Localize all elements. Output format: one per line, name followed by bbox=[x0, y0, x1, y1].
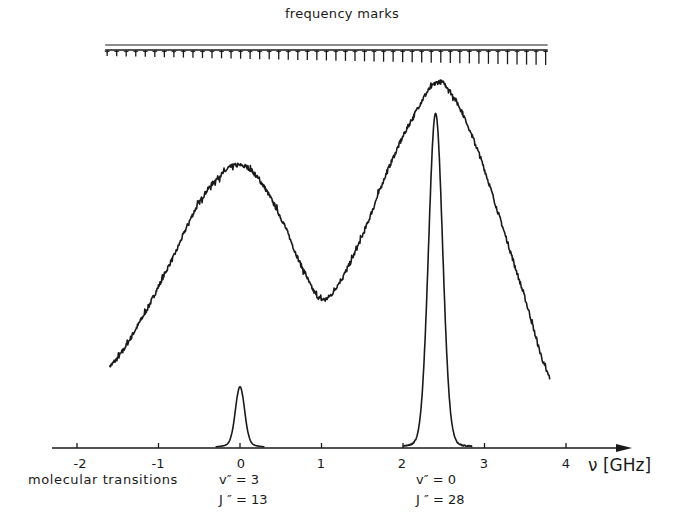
x-axis bbox=[52, 443, 632, 452]
transition-peaks-trace bbox=[216, 113, 473, 446]
transition-2-j-label: J ″ = 28 bbox=[416, 492, 465, 507]
x-tick-label: 4 bbox=[562, 456, 570, 471]
x-axis-title: ν [GHz] bbox=[588, 455, 651, 475]
transition-2-v-label: v″ = 0 bbox=[416, 472, 456, 487]
x-tick-label: 2 bbox=[398, 456, 406, 471]
x-tick-label: 1 bbox=[317, 456, 325, 471]
x-tick-label: -1 bbox=[152, 456, 165, 471]
broad-profile-trace bbox=[110, 80, 550, 379]
plot-area bbox=[0, 0, 684, 532]
x-tick-label: -2 bbox=[74, 456, 87, 471]
frequency-marks-comb bbox=[105, 45, 548, 65]
x-tick-label: 0 bbox=[237, 456, 245, 471]
frequency-marks-label: frequency marks bbox=[0, 6, 684, 21]
x-tick-label: 3 bbox=[480, 456, 488, 471]
spectrum-figure: frequency marks -2 -1 0 1 2 3 4 ν [GHz] … bbox=[0, 0, 684, 532]
transition-1-j-label: J ″ = 13 bbox=[219, 492, 268, 507]
transition-1-v-label: v″ = 3 bbox=[219, 472, 259, 487]
molecular-transitions-label: molecular transitions bbox=[28, 472, 178, 487]
